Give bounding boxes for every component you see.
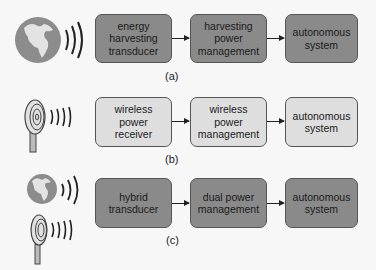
arrow bbox=[172, 121, 189, 122]
globe-icon bbox=[14, 13, 94, 68]
arrow bbox=[267, 203, 284, 204]
arrow bbox=[172, 203, 189, 204]
row-label-c: (c) bbox=[166, 234, 179, 246]
dual-power-management-box: dual power management bbox=[190, 178, 267, 228]
autonomous-system-box: autonomous system bbox=[285, 97, 358, 147]
arrow bbox=[172, 38, 189, 39]
antenna-icon bbox=[31, 212, 81, 267]
wireless-power-receiver-box: wireless power receiver bbox=[95, 97, 172, 147]
globe-icon bbox=[24, 171, 84, 211]
autonomous-system-box: autonomous system bbox=[285, 178, 358, 228]
autonomous-system-box: autonomous system bbox=[285, 14, 358, 63]
wireless-power-management-box: wireless power management bbox=[190, 97, 267, 147]
arrow bbox=[267, 38, 284, 39]
energy-harvesting-transducer-box: energy harvesting transducer bbox=[95, 14, 172, 63]
row-label-b: (b) bbox=[165, 153, 178, 165]
row-label-a: (a) bbox=[165, 70, 178, 82]
antenna-icon bbox=[24, 96, 84, 156]
harvesting-power-management-box: harvesting power management bbox=[190, 14, 267, 63]
hybrid-transducer-box: hybrid transducer bbox=[95, 178, 172, 228]
arrow bbox=[267, 121, 284, 122]
